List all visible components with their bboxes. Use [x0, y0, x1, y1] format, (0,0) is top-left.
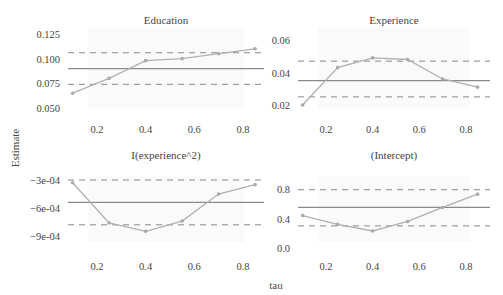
quantile-point: [406, 58, 410, 62]
x-tick-label: 0.6: [188, 261, 201, 272]
x-tick-label: 0.6: [413, 124, 426, 135]
x-tick-label: 0.8: [459, 261, 472, 272]
x-tick-label: 0.2: [90, 261, 103, 272]
panel-title: Education: [144, 14, 189, 26]
quantile-point: [253, 183, 257, 187]
x-tick-label: 0.8: [236, 124, 249, 135]
x-tick-label: 0.4: [366, 124, 380, 135]
y-tick-label: 0.0: [277, 243, 290, 254]
y-tick-label: 0.050: [36, 103, 60, 114]
quantile-point: [336, 66, 340, 70]
y-axis-label: Estimate: [9, 129, 21, 168]
x-tick-label: 0.2: [90, 124, 103, 135]
panel-experience: Experience0.020.040.060.20.40.60.8: [272, 14, 490, 135]
panel-intercept: (Intercept)0.00.40.80.20.40.60.8: [277, 149, 490, 272]
x-tick-label: 0.6: [188, 124, 201, 135]
quantile-point: [180, 57, 184, 61]
y-tick-label: −3e-04: [30, 175, 61, 186]
y-tick-label: 0.075: [36, 78, 60, 89]
y-tick-label: 0.06: [272, 35, 290, 46]
x-tick-label: 0.2: [319, 124, 332, 135]
quantile-point: [71, 91, 75, 95]
panel-background: [318, 176, 470, 242]
y-tick-label: 0.8: [277, 184, 290, 195]
quantile-point: [476, 192, 480, 196]
y-tick-label: −9e-04: [30, 231, 61, 242]
quantile-point: [217, 192, 221, 196]
quantile-point: [180, 219, 184, 223]
y-tick-label: −6e-04: [30, 203, 61, 214]
panel-title: (Intercept): [371, 149, 418, 162]
quantile-point: [217, 52, 221, 56]
panel-title: Experience: [369, 14, 419, 26]
quantile-regression-chart: Education0.0500.0750.1000.1250.20.40.60.…: [0, 0, 503, 295]
quantile-point: [441, 206, 445, 210]
panel-education: Education0.0500.0750.1000.1250.20.40.60.…: [36, 14, 264, 135]
quantile-point: [144, 59, 148, 63]
panel-background: [88, 176, 244, 242]
quantile-point: [476, 85, 480, 89]
panel-background: [318, 28, 470, 108]
x-tick-label: 0.4: [366, 261, 380, 272]
quantile-point: [301, 103, 305, 107]
panel-title: I(experience^2): [131, 149, 201, 162]
x-tick-label: 0.4: [139, 261, 153, 272]
panel-i-experience-2: I(experience^2)−9e-04−6e-04−3e-040.20.40…: [30, 149, 264, 272]
x-tick-label: 0.4: [139, 124, 153, 135]
y-tick-label: 0.125: [36, 29, 60, 40]
y-tick-label: 0.04: [272, 68, 291, 79]
x-tick-label: 0.8: [236, 261, 249, 272]
y-tick-label: 0.100: [36, 54, 60, 65]
quantile-point: [301, 214, 305, 218]
quantile-point: [107, 221, 111, 225]
quantile-point: [336, 223, 340, 227]
y-tick-label: 0.4: [277, 214, 291, 225]
y-tick-label: 0.02: [272, 100, 290, 111]
quantile-point: [253, 47, 257, 51]
quantile-point: [71, 181, 75, 185]
quantile-point: [107, 77, 111, 81]
x-axis-label: tau: [269, 279, 283, 291]
quantile-point: [371, 229, 375, 233]
quantile-point: [371, 56, 375, 60]
quantile-point: [144, 230, 148, 234]
x-tick-label: 0.2: [319, 261, 332, 272]
x-tick-label: 0.8: [459, 124, 472, 135]
quantile-point: [441, 77, 445, 81]
quantile-point: [406, 220, 410, 224]
x-tick-label: 0.6: [413, 261, 426, 272]
